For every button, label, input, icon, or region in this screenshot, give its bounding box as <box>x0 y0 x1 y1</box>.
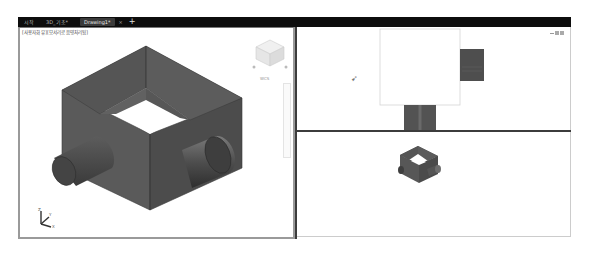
tab-start[interactable]: 시작 <box>24 17 34 27</box>
ucs-axis-icon: Z Y X <box>35 206 57 228</box>
model-top-view <box>297 27 571 131</box>
model-small-iso <box>297 132 571 237</box>
restore-icon[interactable] <box>555 31 559 35</box>
tab-drawing1[interactable]: Drawing1* <box>80 18 114 26</box>
svg-text:X: X <box>52 224 55 228</box>
viewport-window-controls <box>550 31 564 35</box>
tab-3d-basics[interactable]: 3D_기초* <box>46 17 68 27</box>
svg-text:Z: Z <box>38 207 41 212</box>
navigation-bar[interactable] <box>283 83 291 158</box>
new-tab-button[interactable]: + <box>129 17 136 27</box>
mouse-cursor-icon: ➹ <box>351 74 358 83</box>
viewport-bottom-right[interactable] <box>297 132 571 237</box>
minimize-icon[interactable] <box>550 33 554 34</box>
viewport-top-right[interactable]: ➹ <box>297 27 571 131</box>
svg-text:Y: Y <box>48 212 52 217</box>
wcs-label[interactable]: WCS <box>260 76 269 81</box>
viewcube[interactable]: WCS <box>250 36 290 86</box>
viewcube-icon <box>250 36 290 76</box>
file-tab-bar: 시작 3D_기초* Drawing1* × + <box>18 17 571 27</box>
cad-window: 시작 3D_기초* Drawing1* × + [사용자화 뷰][모서리로 음영… <box>18 17 571 239</box>
tab-close-icon[interactable]: × <box>119 19 123 25</box>
close-icon[interactable] <box>560 31 564 35</box>
viewport-left[interactable]: [사용자화 뷰][모서리로 음영처리됨] <box>18 27 295 239</box>
